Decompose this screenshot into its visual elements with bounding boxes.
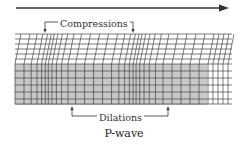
dilations-label: Dilations [97,112,144,123]
propagation-arrow-icon [16,5,229,12]
diagram-title: P-wave [0,127,248,140]
compressions-label: Compressions [58,18,130,29]
